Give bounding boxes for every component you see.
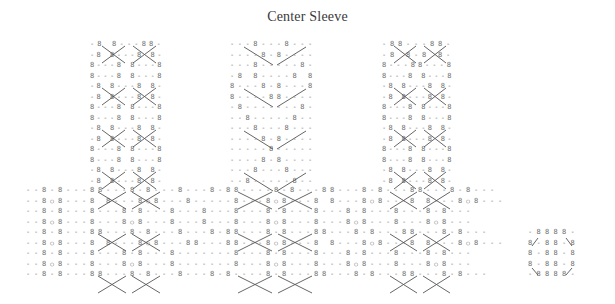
knit-stitch: - [444,92,454,102]
knit-stitch: - [305,134,315,144]
knit-stitch: - [305,60,315,70]
purl-stitch: 8 [114,60,124,70]
purl-stitch: 8 [134,92,144,102]
purl-stitch: 8 [387,50,397,60]
purl-stitch: 8 [305,81,315,91]
knit-stitch: - [444,165,454,175]
purl-stitch: 8 [94,39,104,49]
purl-stitch: 8 [87,238,97,248]
knit-stitch: - [305,176,315,186]
purl-stitch: 8 [235,71,245,81]
purl-stitch: 8 [134,176,144,186]
knitting-chart: -88---88--88---88-8---88---88---88---8-8… [0,0,615,304]
knit-stitch: - [305,39,315,49]
knit-stitch: - [487,185,497,195]
purl-stitch: 8 [386,123,396,133]
purl-stitch: 8 [425,81,435,91]
knit-stitch: - [154,165,164,175]
knit-stitch: - [154,81,164,91]
purl-stitch: 8 [94,176,104,186]
purl-stitch: 8 [444,113,454,123]
knit-stitch: - [305,155,315,165]
purl-stitch: 8 [444,155,454,165]
knit-stitch: - [444,81,454,91]
purl-stitch: 8 [114,71,124,81]
knit-stitch: - [305,113,315,123]
purl-stitch: 8 [425,92,435,102]
purl-stitch: 8 [405,71,415,81]
purl-stitch: 8 [311,196,321,206]
purl-stitch: 8 [134,134,144,144]
knit-stitch: - [154,50,164,60]
purl-stitch: 8 [154,155,164,165]
purl-stitch: 8 [94,50,104,60]
knit-stitch: - [305,92,315,102]
purl-stitch: 8 [94,165,104,175]
knit-stitch: - [463,259,473,269]
purl-stitch: 8 [444,71,454,81]
purl-stitch: 8 [154,102,164,112]
knit-stitch: - [305,144,315,154]
purl-stitch: 8 [94,92,104,102]
purl-stitch: 8 [87,196,97,206]
knit-stitch: - [568,227,578,237]
purl-stitch: 8 [386,165,396,175]
knit-stitch: - [463,217,473,227]
purl-stitch: 8 [568,238,578,248]
purl-stitch: 8 [154,113,164,123]
purl-stitch: 8 [94,81,104,91]
purl-stitch: 8 [405,102,415,112]
purl-stitch: 8 [425,176,435,186]
knit-stitch: - [444,123,454,133]
knit-stitch: - [463,206,473,216]
purl-stitch: 8 [114,144,124,154]
knit-stitch: - [443,39,453,49]
knit-stitch: - [305,123,315,133]
purl-stitch: 8 [386,134,396,144]
knit-stitch: - [305,102,315,112]
knit-stitch: - [479,227,489,237]
purl-stitch: 8 [568,248,578,258]
knit-stitch: - [154,92,164,102]
purl-stitch: 8 [94,123,104,133]
purl-stitch: 8 [290,71,300,81]
purl-stitch: 8 [134,165,144,175]
purl-stitch: 8 [154,60,164,70]
purl-stitch: 8 [419,50,429,60]
purl-stitch: 8 [405,155,415,165]
purl-stitch: 8 [386,81,396,91]
knit-stitch: - [495,196,505,206]
purl-stitch: 8 [568,259,578,269]
purl-stitch: 8 [311,238,321,248]
purl-stitch: 8 [405,113,415,123]
purl-stitch: 8 [386,176,396,186]
knit-stitch: - [305,165,315,175]
purl-stitch: 8 [444,144,454,154]
knit-stitch: - [154,176,164,186]
purl-stitch: 8 [407,196,417,206]
purl-stitch: 8 [114,155,124,165]
knit-stitch: - [154,39,164,49]
purl-stitch: 8 [134,81,144,91]
purl-stitch: 8 [154,144,164,154]
knit-stitch: - [444,134,454,144]
purl-stitch: 8 [425,165,435,175]
purl-stitch: 8 [405,144,415,154]
purl-stitch: 8 [444,102,454,112]
purl-stitch: 8 [305,71,315,81]
purl-stitch: 8 [94,134,104,144]
knit-stitch: - [463,248,473,258]
knit-stitch: - [479,269,489,279]
purl-stitch: 8 [114,113,124,123]
purl-stitch: 8 [154,71,164,81]
knit-stitch: - [495,238,505,248]
knit-stitch: - [443,50,453,60]
knit-stitch: - [154,134,164,144]
knit-stitch: - [568,269,578,279]
purl-stitch: 8 [444,60,454,70]
purl-stitch: 8 [114,102,124,112]
knit-stitch: - [305,50,315,60]
purl-stitch: 8 [407,238,417,248]
knit-stitch: - [154,123,164,133]
purl-stitch: 8 [425,134,435,144]
